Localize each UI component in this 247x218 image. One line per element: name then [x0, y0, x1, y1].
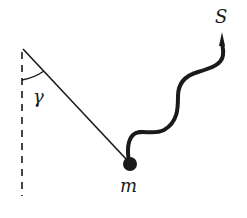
wavy-string [128, 42, 223, 162]
diagram-canvas: S γ m [0, 0, 247, 218]
arrowhead-icon [219, 32, 225, 46]
angle-label: γ [33, 86, 44, 107]
mass-label: m [120, 175, 137, 196]
source-label: S [215, 6, 227, 27]
mass-bob [123, 157, 137, 171]
angle-arc [22, 71, 44, 80]
pendulum-diagram: S γ m [0, 0, 247, 218]
